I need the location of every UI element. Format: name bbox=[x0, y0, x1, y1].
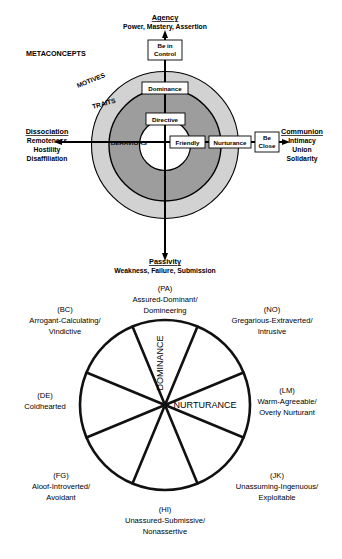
wheel-axis-label-nurturance: NURTURANCE bbox=[174, 400, 237, 410]
node-be-in-control-line-1: Be in bbox=[157, 42, 172, 49]
octant-no-code: (NO) bbox=[264, 305, 281, 314]
pole-right-line-1: Intimacy bbox=[288, 137, 316, 145]
octant-pa-line-2: Domineering bbox=[143, 306, 186, 315]
pole-top-subtitle: Power, Mastery, Assertion bbox=[123, 23, 207, 31]
octant-no-line-1: Gregarious-Extraverted/ bbox=[231, 316, 313, 325]
octant-no-line-2: Intrusive bbox=[258, 327, 287, 336]
node-dominance: Dominance bbox=[142, 82, 188, 94]
metaconcepts-label: METACONCEPTS bbox=[26, 49, 86, 58]
figure-interpersonal-levels: Agency Power, Mastery, Assertion Passivi… bbox=[0, 0, 342, 278]
octant-jk-line-1: Unassuming-Ingenuous/ bbox=[236, 482, 319, 491]
figure-interpersonal-octants: DOMINANCE NURTURANCE (PA) Assured-Domina… bbox=[0, 278, 342, 559]
octant-hi-code: (HI) bbox=[159, 505, 172, 514]
octant-fg-line-1: Aloof-Introverted/ bbox=[32, 482, 91, 491]
node-directive: Directive bbox=[146, 113, 185, 125]
octant-label-no: (NO) Gregarious-Extraverted/ Intrusive bbox=[231, 305, 313, 336]
octant-jk-code: (JK) bbox=[270, 471, 284, 480]
octant-label-de: (DE) Coldhearted bbox=[24, 391, 65, 411]
node-directive-label: Directive bbox=[152, 116, 179, 123]
octant-lm-line-2: Overly Nurturant bbox=[259, 408, 316, 417]
octant-label-jk: (JK) Unassuming-Ingenuous/ Exploitable bbox=[236, 471, 319, 502]
pole-left-line-2: Hostility bbox=[34, 146, 61, 154]
pole-bottom-title: Passivity bbox=[149, 257, 182, 266]
node-be-in-control-line-2: Control bbox=[154, 50, 176, 57]
pole-left-line-3: Disaffiliation bbox=[27, 155, 68, 162]
node-be-close-line-2: Close bbox=[259, 142, 276, 149]
octant-bc-line-1: Arrogant-Calculating/ bbox=[29, 316, 101, 325]
wheel-axis-label-dominance: DOMINANCE bbox=[155, 335, 165, 390]
ring-label-motives: MOTIVES bbox=[76, 71, 107, 89]
octant-de-code: (DE) bbox=[37, 391, 53, 400]
octants-diagram-svg: DOMINANCE NURTURANCE (PA) Assured-Domina… bbox=[0, 278, 342, 559]
octant-fg-code: (FG) bbox=[53, 471, 69, 480]
pole-left-title: Dissociation bbox=[26, 127, 69, 136]
node-be-in-control: Be in Control bbox=[148, 40, 182, 60]
node-be-close: Be Close bbox=[255, 132, 279, 152]
octant-bc-line-2: Vindictive bbox=[49, 327, 81, 336]
ring-label-behaviors: BEHAVIORS bbox=[111, 139, 147, 146]
node-nurturance-label: Nurturance bbox=[213, 139, 247, 146]
pole-left-line-1: Remoteness bbox=[27, 137, 68, 144]
octant-wheel-hub bbox=[162, 402, 168, 408]
pole-top-title: Agency bbox=[152, 13, 180, 22]
octant-fg-line-2: Avoidant bbox=[46, 493, 76, 502]
node-nurturance: Nurturance bbox=[209, 136, 251, 148]
octant-label-bc: (BC) Arrogant-Calculating/ Vindictive bbox=[29, 305, 101, 336]
octant-hi-line-1: Unassured-Submissive/ bbox=[125, 516, 206, 525]
octant-label-lm: (LM) Warm-Agreeable/ Overly Nurturant bbox=[257, 386, 317, 417]
node-dominance-label: Dominance bbox=[148, 85, 182, 92]
pole-right-line-2: Union bbox=[292, 146, 311, 153]
octant-lm-code: (LM) bbox=[279, 386, 295, 395]
octant-hi-line-2: Nonassertive bbox=[143, 527, 187, 536]
octant-label-fg: (FG) Aloof-Introverted/ Avoidant bbox=[32, 471, 91, 502]
node-be-close-line-1: Be bbox=[263, 134, 271, 141]
pole-right-title: Communion bbox=[281, 127, 323, 136]
axis-arrow-up bbox=[162, 30, 168, 38]
levels-diagram-svg: Agency Power, Mastery, Assertion Passivi… bbox=[0, 0, 342, 278]
octant-label-pa: (PA) Assured-Dominant/ Domineering bbox=[133, 284, 199, 315]
node-friendly: Friendly bbox=[170, 136, 205, 148]
octant-pa-line-1: Assured-Dominant/ bbox=[133, 295, 199, 304]
octant-bc-code: (BC) bbox=[57, 305, 73, 314]
octant-jk-line-2: Exploitable bbox=[258, 493, 295, 502]
octant-label-hi: (HI) Unassured-Submissive/ Nonassertive bbox=[125, 505, 206, 536]
octant-pa-code: (PA) bbox=[158, 284, 173, 293]
pole-bottom-subtitle: Weakness, Failure, Submission bbox=[114, 267, 216, 275]
octant-de-line-1: Coldhearted bbox=[24, 402, 65, 411]
node-friendly-label: Friendly bbox=[175, 139, 200, 146]
pole-right-line-3: Solidarity bbox=[287, 155, 318, 163]
octant-lm-line-1: Warm-Agreeable/ bbox=[257, 397, 317, 406]
